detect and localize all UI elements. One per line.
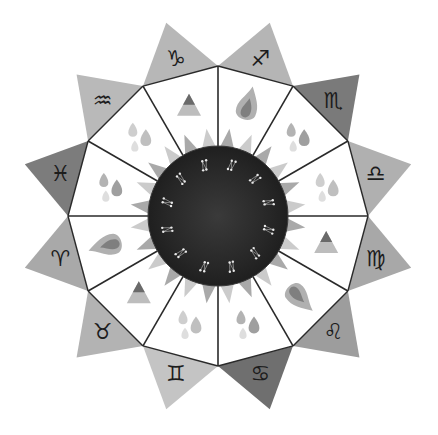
sign-sagittarius: ♐ bbox=[218, 23, 293, 86]
sign-pisces: ♓ bbox=[25, 141, 88, 216]
spoke-line bbox=[279, 141, 348, 181]
spoke-line bbox=[279, 251, 348, 291]
zodiac-wheel: ♐♏♎♍♌♋♊♉♈♓♒♑ bbox=[0, 0, 438, 435]
libra-glyph-icon: ♎ bbox=[366, 161, 386, 186]
zodiac-wheel-svg: ♐♏♎♍♌♋♊♉♈♓♒♑ bbox=[0, 0, 438, 435]
spoke-line bbox=[253, 86, 293, 155]
droplet-icon bbox=[316, 173, 339, 202]
spoke-line bbox=[88, 141, 157, 181]
scorpio-glyph-icon: ♏ bbox=[324, 88, 344, 113]
flame-icon bbox=[281, 279, 320, 318]
aries-glyph-icon: ♈ bbox=[50, 246, 70, 271]
sign-capricorn: ♑ bbox=[143, 23, 218, 86]
droplet-icon bbox=[99, 173, 122, 202]
droplet-icon bbox=[128, 123, 151, 152]
spoke-line bbox=[88, 251, 157, 291]
sign-libra: ♎ bbox=[348, 141, 411, 216]
gemini-glyph-icon: ♊ bbox=[166, 361, 186, 386]
spoke-line bbox=[253, 277, 293, 346]
cancer-glyph-icon: ♋ bbox=[250, 361, 270, 386]
sign-cancer: ♋ bbox=[218, 346, 293, 409]
virgo-glyph-icon: ♍ bbox=[366, 246, 386, 271]
sign-aries: ♈ bbox=[25, 216, 88, 291]
triangle-icon bbox=[314, 231, 338, 253]
spoke-line bbox=[143, 277, 183, 346]
capricorn-glyph-icon: ♑ bbox=[166, 46, 186, 71]
droplet-icon bbox=[236, 310, 259, 339]
sign-virgo: ♍ bbox=[348, 216, 411, 291]
sagittarius-glyph-icon: ♐ bbox=[250, 46, 270, 71]
droplet-icon bbox=[287, 123, 310, 152]
triangle-icon bbox=[127, 281, 151, 303]
leo-glyph-icon: ♌ bbox=[324, 319, 344, 344]
sign-gemini: ♊ bbox=[143, 346, 218, 409]
flame-icon bbox=[234, 84, 263, 122]
taurus-glyph-icon: ♉ bbox=[93, 319, 113, 344]
night-sky-disc bbox=[148, 146, 288, 286]
triangle-icon bbox=[177, 94, 201, 116]
aquarius-glyph-icon: ♒ bbox=[93, 88, 113, 113]
flame-icon bbox=[86, 232, 124, 261]
night-sky-circle bbox=[148, 146, 288, 286]
droplet-icon bbox=[179, 310, 202, 339]
pisces-glyph-icon: ♓ bbox=[50, 161, 70, 186]
